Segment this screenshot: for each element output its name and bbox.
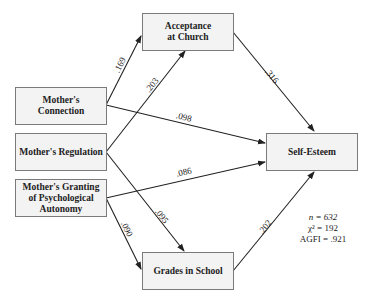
model-fit-stats: n = 632 χ² = 192 AGFI = .921 [288,212,358,245]
node-mothers-connection: Mother's Connection [15,87,107,125]
node-label: Grades in School [153,266,222,277]
node-label: Self-Esteem [288,147,336,158]
stat-chi-square: χ² = 192 [288,223,358,234]
edge-connection-selfesteem [106,105,265,143]
node-label: Mother's Connection [19,95,103,117]
stat-n: n = 632 [288,212,358,223]
edge-regulation-grades [106,152,184,251]
node-mothers-autonomy: Mother's Granting of Psychological Auton… [15,179,107,217]
stat-agfi: AGFI = .921 [288,234,358,245]
node-label: Mother's Granting of Psychological Auton… [19,182,103,215]
node-acceptance-church: Acceptance at Church [142,13,234,51]
edge-connection-church [106,36,141,105]
node-label: Acceptance at Church [161,21,215,43]
node-grades-school: Grades in School [142,252,234,290]
node-self-esteem: Self-Esteem [266,133,358,171]
node-label: Mother's Regulation [19,147,103,158]
node-mothers-regulation: Mother's Regulation [15,133,107,171]
